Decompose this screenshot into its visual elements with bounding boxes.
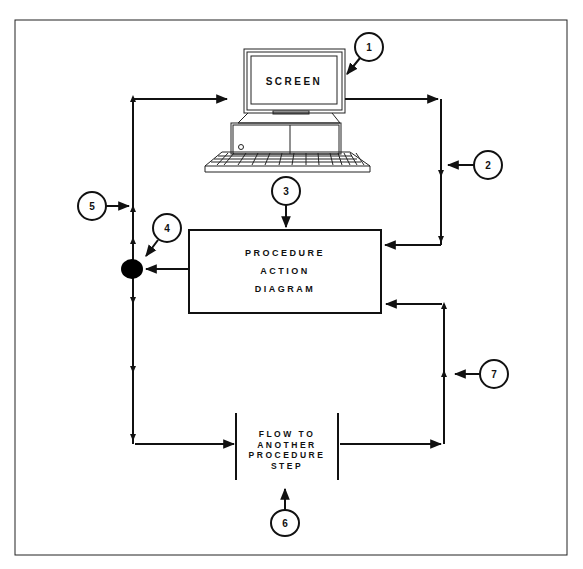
svg-text:7: 7 — [491, 369, 497, 380]
callout-5: 5 — [78, 192, 129, 220]
svg-text:2: 2 — [485, 160, 491, 171]
svg-text:6: 6 — [282, 518, 288, 529]
right-lower-route — [340, 302, 447, 444]
flow-line-4: STEP — [271, 461, 303, 471]
flow-line-1: FLOW TO — [259, 429, 316, 439]
computer-icon — [205, 49, 370, 172]
flow-line-3: PROCEDURE — [249, 450, 326, 460]
callout-2: 2 — [448, 151, 502, 179]
flow-line-2: ANOTHER — [257, 440, 317, 450]
junction-dot — [121, 259, 143, 279]
svg-text:5: 5 — [89, 201, 95, 212]
callout-3: 3 — [272, 177, 300, 205]
pad-line-3: DIAGRAM — [255, 284, 316, 294]
svg-text:3: 3 — [283, 186, 289, 197]
callout-6: 6 — [271, 489, 299, 536]
svg-text:1: 1 — [366, 42, 372, 53]
callout-7: 7 — [455, 360, 508, 388]
pad-line-2: ACTION — [260, 266, 310, 276]
diagram-canvas: SCREEN PROCEDURE ACTION DIAGRAM FLOW TO … — [0, 0, 583, 569]
callout-1: 1 — [347, 33, 383, 74]
svg-text:4: 4 — [164, 223, 170, 234]
screen-label: SCREEN — [266, 76, 323, 87]
pad-line-1: PROCEDURE — [245, 248, 325, 258]
callout-4: 4 — [146, 214, 181, 256]
